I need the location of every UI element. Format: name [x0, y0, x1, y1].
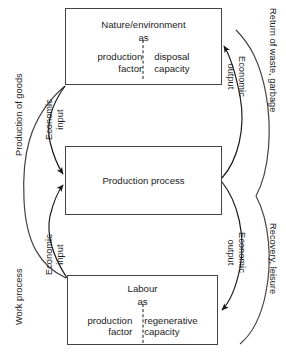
node-process-title: Production process	[102, 175, 184, 187]
label-economic-output-bottom-line1: Economic	[237, 232, 248, 273]
node-labour-split: production factor regenerative capacity	[87, 315, 197, 338]
circular-flow-diagram: Nature/environment as production factor …	[0, 0, 286, 363]
label-return-of-waste: Return of waste, garbage	[268, 8, 279, 112]
label-economic-input-top-line2: input	[55, 99, 66, 140]
dashed-divider-icon	[143, 40, 144, 79]
label-economic-output-top: Economic output	[226, 56, 247, 97]
node-labour: Labour as production factor regenerative…	[67, 275, 218, 345]
node-nature-left-line2: factor	[97, 63, 142, 75]
label-economic-output-top-line1: Economic	[237, 56, 248, 97]
node-labour-right-column: regenerative capacity	[138, 315, 197, 338]
label-economic-output-bottom-line2: output	[226, 232, 237, 273]
label-production-of-goods: Production of goods	[14, 73, 25, 156]
node-production-process: Production process	[65, 146, 222, 215]
label-economic-output-bottom: Economic output	[226, 232, 247, 273]
node-nature-right-line1: disposal	[154, 51, 189, 63]
node-labour-left-column: production factor	[87, 315, 138, 338]
node-nature-title: Nature/environment	[101, 19, 185, 31]
label-economic-input-bottom: Economic input	[44, 234, 65, 275]
node-labour-left-line2: factor	[87, 326, 132, 338]
node-nature-left-line1: production	[97, 51, 142, 63]
label-recovery-leisure: Recovery, leisure	[268, 223, 279, 294]
edge-return-of-waste	[236, 30, 269, 196]
label-economic-input-top: Economic input	[44, 99, 65, 140]
label-economic-input-bottom-line2: input	[55, 234, 66, 275]
node-nature-right-column: disposal capacity	[148, 51, 189, 74]
node-nature-right-line2: capacity	[154, 63, 189, 75]
node-nature-split: production factor disposal capacity	[97, 51, 189, 74]
node-labour-left-line1: production	[87, 315, 132, 327]
node-nature-left-column: production factor	[97, 51, 148, 74]
node-nature-environment: Nature/environment as production factor …	[65, 8, 222, 85]
node-labour-title: Labour	[128, 283, 158, 295]
label-economic-output-top-line2: output	[226, 56, 237, 97]
node-labour-right-line1: regenerative	[144, 315, 197, 327]
label-economic-input-bottom-line1: Economic	[44, 234, 55, 275]
dashed-divider-icon	[142, 304, 143, 343]
node-labour-right-line2: capacity	[144, 326, 197, 338]
label-work-process: Work process	[14, 268, 25, 325]
label-economic-input-top-line1: Economic	[44, 99, 55, 140]
